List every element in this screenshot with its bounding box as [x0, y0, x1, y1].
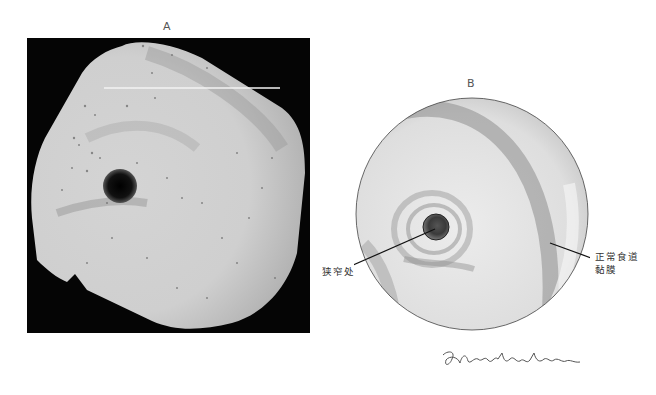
- panel-a-label: A: [163, 20, 171, 33]
- normal-mucosa-label: 正常食道 黏膜: [595, 250, 645, 276]
- artist-signature: [438, 345, 588, 375]
- normal-mucosa-label-line1: 正常食道: [595, 250, 645, 263]
- endoscopic-illustration: [354, 94, 590, 334]
- endoscopic-photo: [27, 38, 310, 333]
- stricture-label: 狭窄处: [322, 265, 355, 278]
- normal-mucosa-label-line2: 黏膜: [595, 263, 645, 276]
- panel-b-label: B: [467, 77, 475, 90]
